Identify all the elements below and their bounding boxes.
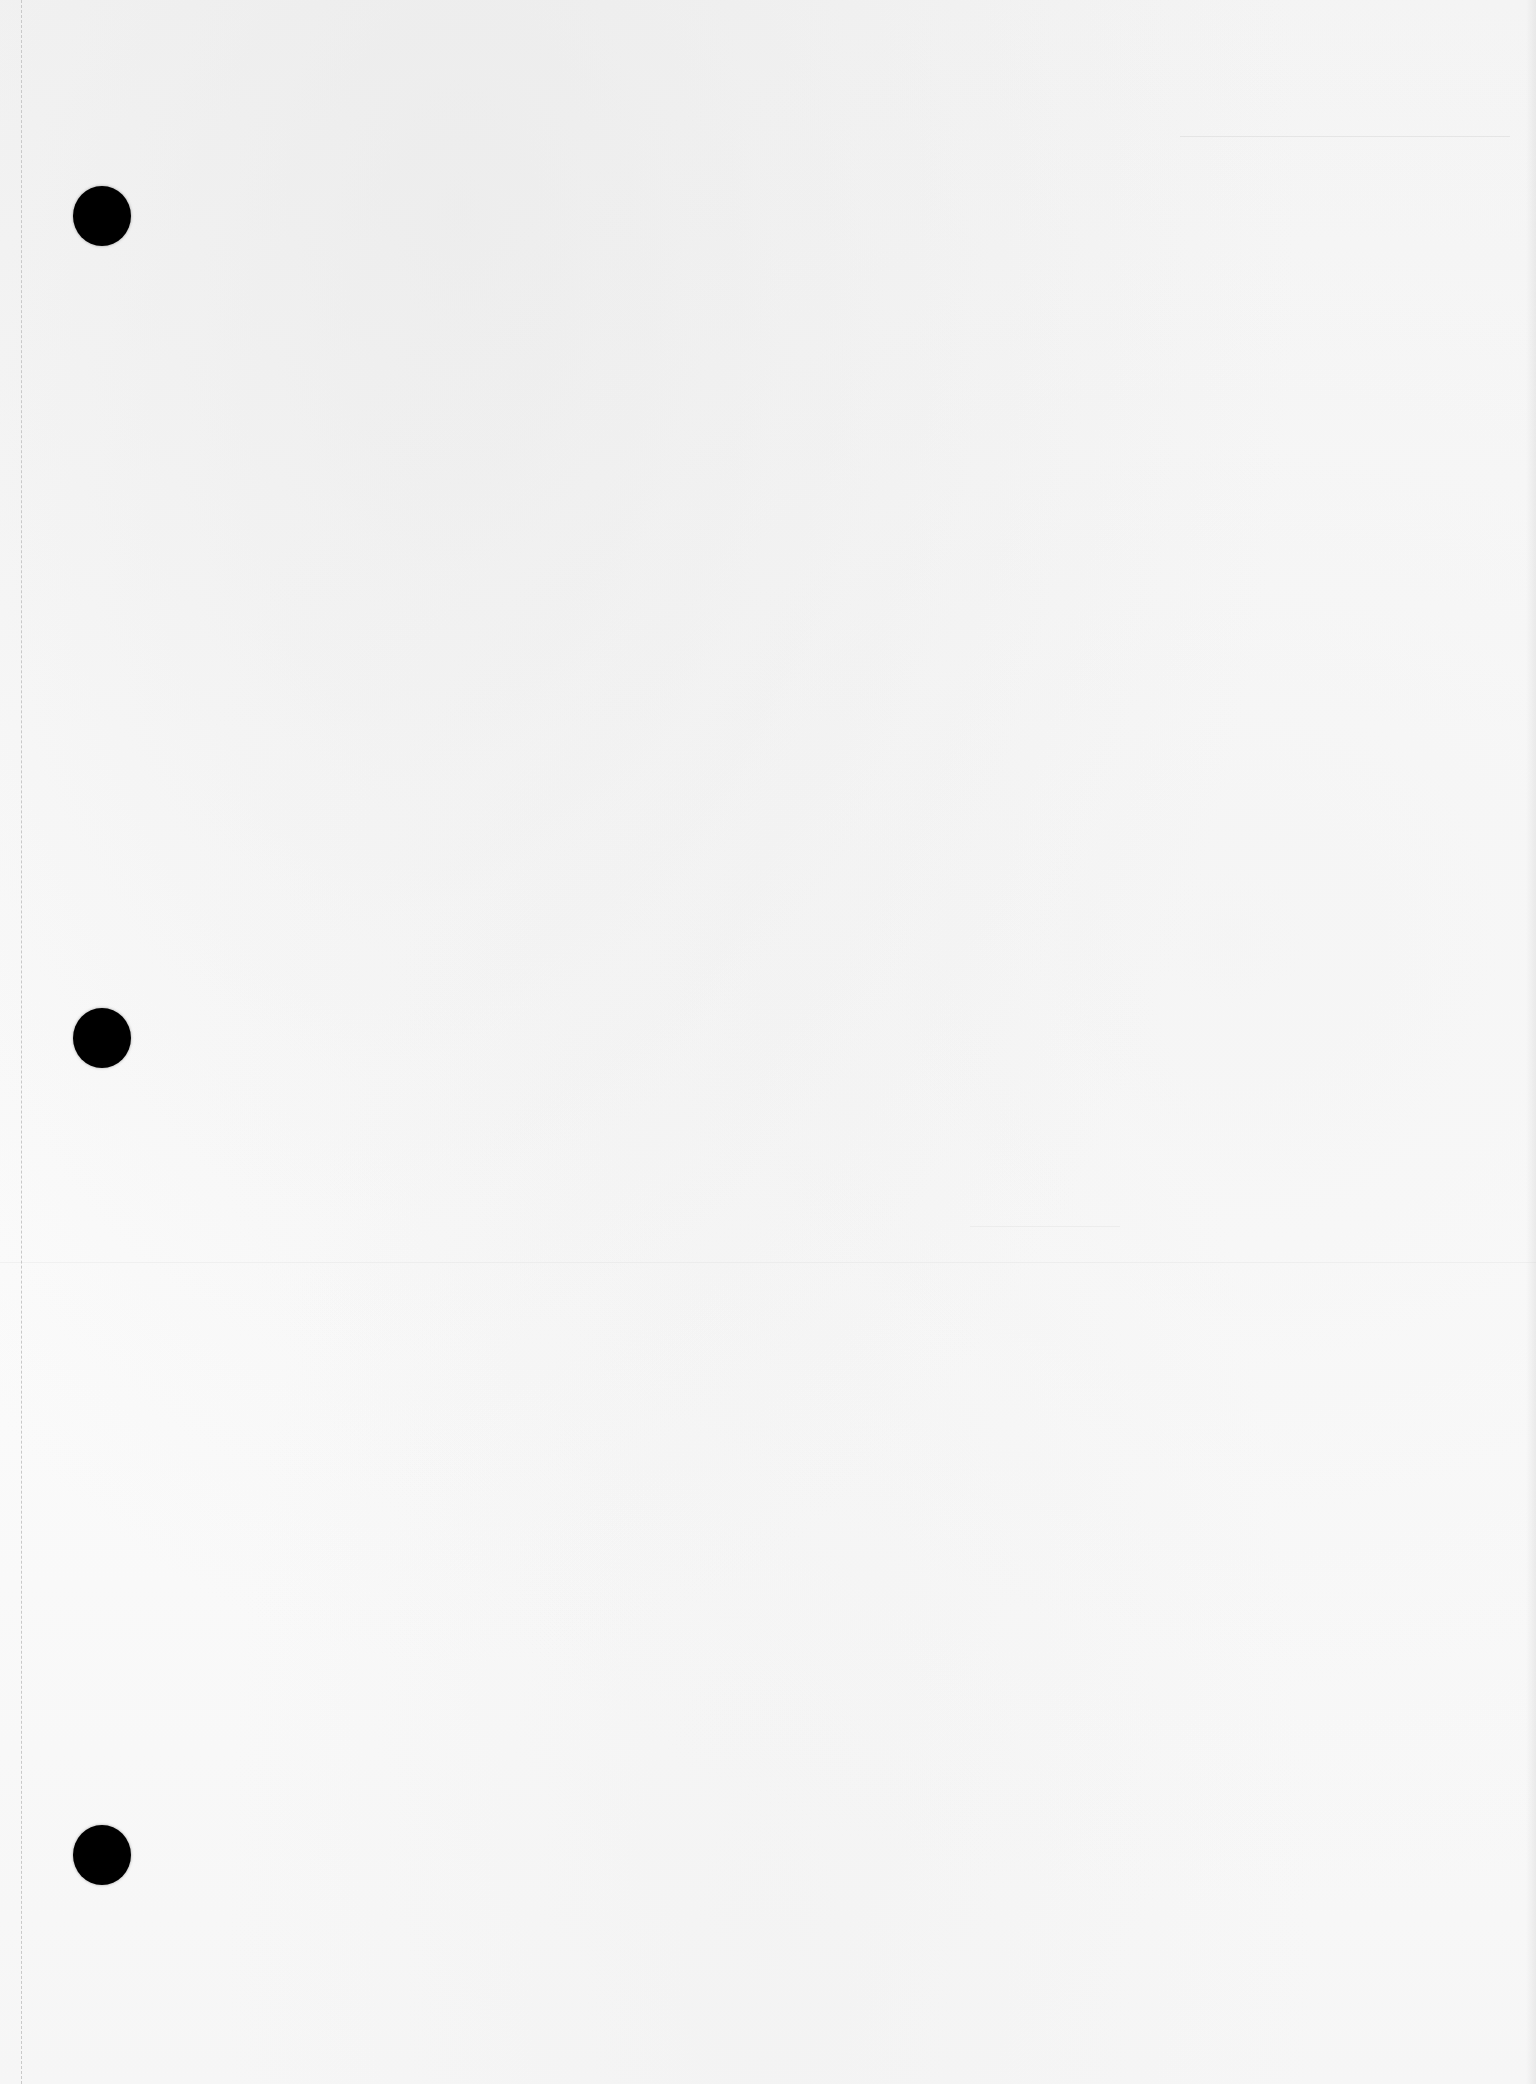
paper-sheet: [0, 0, 1536, 2084]
punch-hole-top: [73, 186, 131, 246]
show-through-mark: [1180, 136, 1510, 137]
punch-hole-middle: [73, 1008, 131, 1068]
show-through-mark: [0, 1262, 1536, 1263]
punch-hole-bottom: [73, 1825, 131, 1885]
perforation-line: [21, 0, 22, 2084]
page-edge-shadow: [1526, 0, 1536, 2084]
show-through-mark: [970, 1226, 1120, 1227]
